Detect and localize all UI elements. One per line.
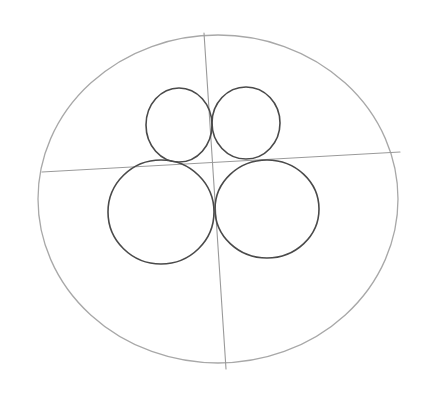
horizontal-guide-line bbox=[42, 152, 400, 172]
circle-bottom-right bbox=[215, 160, 319, 258]
circle-top-left bbox=[146, 88, 212, 162]
sketch-canvas bbox=[0, 0, 426, 396]
circle-top-right bbox=[212, 87, 280, 159]
outer-circle bbox=[38, 35, 398, 363]
circle-bottom-left bbox=[108, 160, 214, 264]
